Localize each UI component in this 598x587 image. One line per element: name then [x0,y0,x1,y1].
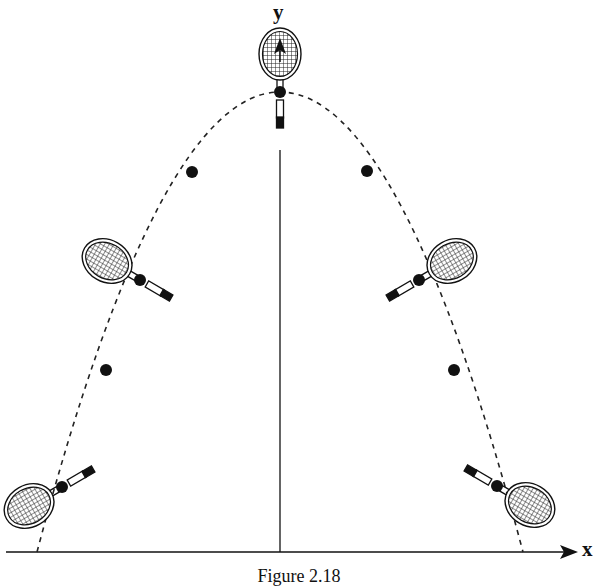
racket-left-low [0,451,104,537]
racket-right-mid [377,230,485,316]
com-point [274,86,286,98]
racket-right-low [455,450,563,536]
racket-left-mid [74,230,182,316]
x-axis [6,545,578,559]
com-point [100,364,112,376]
com-point [56,481,68,493]
figure-caption: Figure 2.18 [0,566,598,587]
x-axis-label: x [582,539,593,560]
com-point [361,165,373,177]
com-point [448,364,460,376]
com-point [186,166,198,178]
y-axis-label: y [273,2,284,23]
com-point [413,274,425,286]
com-point [491,480,503,492]
com-point [134,274,146,286]
